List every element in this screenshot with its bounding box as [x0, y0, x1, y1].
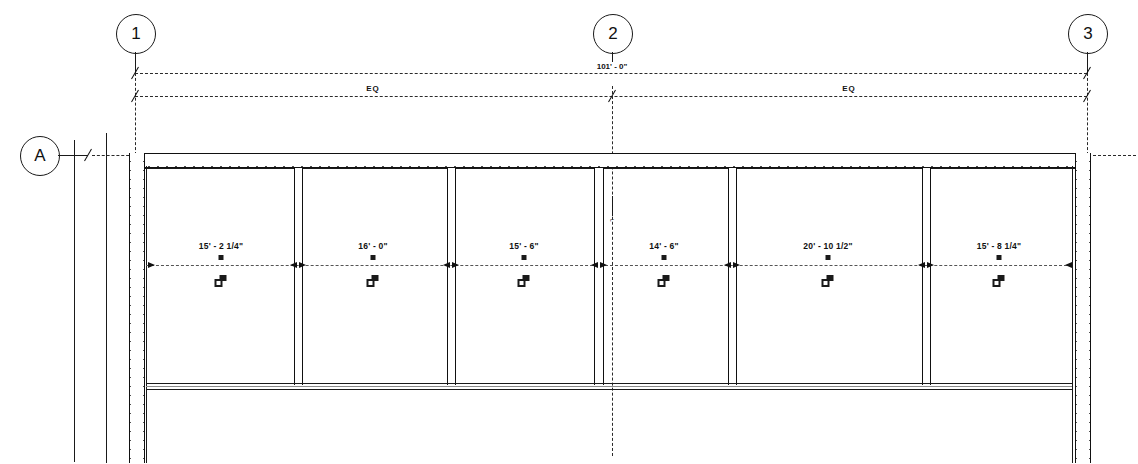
left-extension-line-2 [106, 133, 107, 463]
bay-dimension-label-5: 20' - 10 1/2" [803, 241, 852, 251]
mullion-1 [294, 168, 303, 385]
eq-label-right: EQ [842, 84, 856, 93]
bay-arrow-2a [443, 262, 450, 268]
bay-arrow-4b [733, 262, 740, 268]
bay-dimension-marker-3 [522, 255, 527, 260]
grid-line-a-stub [58, 155, 88, 156]
bay-dimension-label-6: 15' - 8 1/4" [977, 241, 1021, 251]
mullion-2 [447, 168, 456, 385]
bay-arrow-2b [452, 262, 459, 268]
overall-dimension-line [135, 73, 1087, 74]
window-tag-6[interactable] [993, 275, 1006, 287]
grid-line-2 [612, 86, 613, 456]
bay-dimension-label-4: 14' - 6" [649, 241, 678, 251]
eq-label-left: EQ [366, 84, 380, 93]
bay-dimension-marker-1 [219, 255, 224, 260]
left-extension-line [74, 140, 75, 462]
bay-arrow-1b [299, 262, 306, 268]
window-tag-3[interactable] [518, 275, 531, 287]
mullion-4 [728, 168, 737, 385]
bay-arrow-5b [927, 262, 934, 268]
grid-bubble-3-label: 3 [1083, 25, 1092, 42]
grid-bubble-a[interactable]: A [20, 136, 60, 176]
grid-bubble-3[interactable]: 3 [1068, 14, 1108, 54]
wall-inner-face-top [131, 168, 1087, 169]
bay-arrow-4a [724, 262, 731, 268]
grid-line-1 [135, 73, 136, 155]
bay-dimension-marker-5 [826, 255, 831, 260]
grid-bubble-2[interactable]: 2 [593, 14, 633, 54]
grid-bubble-1-label: 1 [131, 25, 140, 42]
beam-line-mid [146, 386, 1072, 387]
exterior-wall-right [1075, 153, 1091, 463]
bay-dimension-marker-2 [371, 255, 376, 260]
grid-bubble-a-label: A [34, 147, 45, 164]
bay-arrow-1a [290, 262, 297, 268]
bay-arrow-3a [591, 262, 598, 268]
exterior-wall-top [131, 153, 1087, 168]
beam-line-top [146, 383, 1072, 384]
mullion-3 [594, 168, 604, 385]
bay-dimension-marker-6 [997, 255, 1002, 260]
wall-inner-face-left [146, 166, 147, 463]
floor-plan-drawing: 1 2 3 101' - 0" EQ EQ A [0, 0, 1138, 464]
centerline-leader [612, 196, 613, 216]
centerline-marker: ⌐ [610, 216, 614, 223]
grid-line-a-left [92, 155, 134, 156]
wall-hatch-top [131, 154, 1087, 167]
exterior-wall-left [129, 153, 145, 463]
window-tag-2[interactable] [367, 275, 380, 287]
wall-inner-face-right [1072, 166, 1073, 463]
grid-line-3 [1087, 73, 1088, 155]
bay-arrow-3b [600, 262, 607, 268]
overall-dimension-label: 101' - 0" [594, 62, 631, 71]
bay-arrow-5a [918, 262, 925, 268]
window-tag-4[interactable] [658, 275, 671, 287]
wall-hatch-left [130, 153, 144, 463]
bay-arrow-0 [148, 262, 155, 268]
window-tag-1[interactable] [215, 275, 228, 287]
grid-bubble-1[interactable]: 1 [116, 14, 156, 54]
window-tag-5[interactable] [822, 275, 835, 287]
bay-dimension-label-1: 15' - 2 1/4" [199, 241, 243, 251]
mullion-5 [922, 168, 931, 385]
beam-line-bottom [146, 389, 1072, 390]
bay-arrow-6 [1065, 262, 1072, 268]
bay-dimension-label-2: 16' - 0" [358, 241, 387, 251]
grid-bubble-2-label: 2 [608, 25, 617, 42]
wall-hatch-right [1076, 153, 1090, 463]
bay-dimension-label-3: 15' - 6" [509, 241, 538, 251]
bay-dimension-marker-4 [662, 255, 667, 260]
